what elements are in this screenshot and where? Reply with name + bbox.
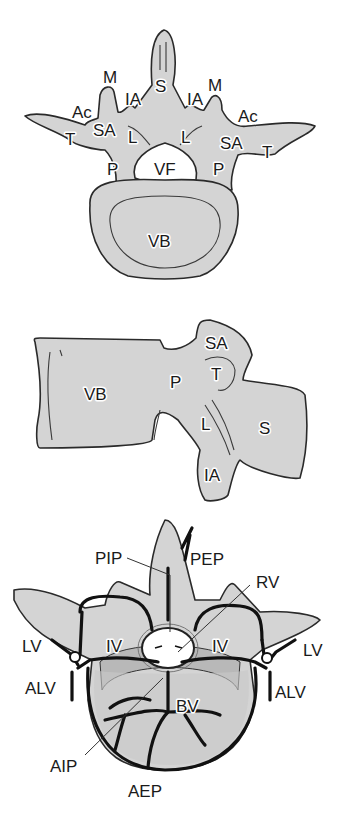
lateral-view-panel <box>34 320 306 501</box>
label-sa-left: SA <box>93 121 116 140</box>
label-iv-right: IV <box>212 637 229 656</box>
label-vb-lat: VB <box>84 385 107 404</box>
lateral-vertebra <box>34 320 306 501</box>
label-aip: AIP <box>50 757 77 776</box>
label-s-top: S <box>155 77 166 96</box>
label-p-left: P <box>107 160 118 179</box>
label-s-lat: S <box>259 419 270 438</box>
label-l-lat: L <box>201 415 210 434</box>
label-rv: RV <box>256 573 280 592</box>
label-iv-left: IV <box>106 637 123 656</box>
label-ia-left: IA <box>125 90 142 109</box>
label-ia-right: IA <box>187 90 204 109</box>
label-sa-lat: SA <box>205 334 228 353</box>
label-m-left: M <box>103 68 117 87</box>
label-p-right: P <box>213 160 224 179</box>
label-l-right: L <box>181 128 190 147</box>
label-lv-right: LV <box>303 641 323 660</box>
label-t-right: T <box>262 143 272 162</box>
label-bv: BV <box>176 697 199 716</box>
label-alv-left: ALV <box>25 679 57 698</box>
label-pep: PEP <box>190 550 224 569</box>
label-vb-top: VB <box>148 232 171 251</box>
label-m-right: M <box>208 76 222 95</box>
vertebra-diagram: M S M IA IA Ac Ac SA SA T T L L P VF P V… <box>0 0 350 814</box>
label-aep: AEP <box>128 782 162 801</box>
label-sa-right: SA <box>220 134 243 153</box>
label-t-lat: T <box>211 365 221 384</box>
label-pip: PIP <box>95 549 122 568</box>
label-alv-right: ALV <box>275 683 307 702</box>
label-t-left: T <box>65 130 75 149</box>
label-p-lat: P <box>170 373 181 392</box>
vertebral-body <box>90 179 238 279</box>
venous-view-panel <box>14 520 320 770</box>
label-l-left: L <box>128 128 137 147</box>
label-ac-right: Ac <box>238 107 258 126</box>
label-vf: VF <box>154 160 176 179</box>
label-ia-lat: IA <box>204 466 221 485</box>
label-ac-left: Ac <box>72 103 92 122</box>
label-lv-left: LV <box>22 637 42 656</box>
